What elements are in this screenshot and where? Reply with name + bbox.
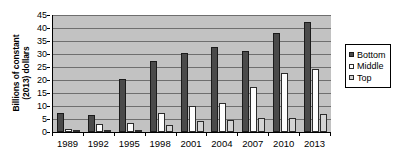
y-tick-label: 45 (37, 10, 47, 19)
x-tick-mark (145, 132, 146, 136)
y-tick-mark (47, 106, 50, 107)
bar-middle-2007 (250, 87, 257, 131)
bar-bottom-1989 (57, 113, 64, 131)
x-tick-label-2001: 2001 (176, 138, 207, 149)
bar-bottom-2001 (181, 53, 188, 131)
x-axis-tick-labels: 198919921995199820012004200720102013 (52, 138, 330, 149)
x-tick-mark (114, 132, 115, 136)
x-tick-label-2013: 2013 (299, 138, 330, 149)
bar-bottom-2010 (273, 33, 280, 132)
y-tick-label: 40 (37, 23, 47, 32)
bar-middle-1992 (96, 124, 103, 132)
x-tick-mark (206, 132, 207, 136)
bar-middle-2004 (219, 103, 226, 132)
y-tick-mark (47, 80, 50, 81)
bar-bottom-1995 (119, 79, 126, 132)
y-tick-label: 10 (37, 101, 47, 110)
y-tick-mark (47, 28, 50, 29)
bar-middle-2001 (189, 106, 196, 132)
x-tick-label-2007: 2007 (237, 138, 268, 149)
bar-group (238, 15, 269, 132)
legend-label: Bottom (357, 50, 386, 60)
x-tick-mark (52, 132, 53, 136)
y-tick-label: 35 (37, 36, 47, 45)
x-tick-label-2004: 2004 (206, 138, 237, 149)
legend-label: Top (357, 73, 372, 83)
legend-swatch-icon (349, 64, 354, 69)
y-tick-mark (47, 119, 50, 120)
y-tick-label: 20 (37, 75, 47, 84)
x-axis-ticks (52, 132, 330, 137)
y-tick-mark (47, 67, 50, 68)
bar-group (300, 15, 331, 132)
bar-group (177, 15, 208, 132)
bar-middle-1995 (127, 123, 134, 132)
bar-bottom-2013 (304, 22, 311, 131)
bar-group (115, 15, 146, 132)
y-tick-label: 25 (37, 62, 47, 71)
y-axis-title-line-1: Billions of constant (10, 35, 21, 112)
bar-top-2013 (320, 114, 327, 132)
y-tick-label: 15 (37, 88, 47, 97)
bar-group (207, 15, 238, 132)
bar-bottom-1992 (88, 115, 95, 131)
bar-chart: Billions of constant (2013) dollars 0510… (0, 0, 407, 163)
legend-label: Middle (357, 61, 384, 71)
legend-item-middle: Middle (349, 61, 386, 71)
y-tick-mark (47, 15, 50, 16)
y-tick-mark (47, 132, 50, 133)
y-tick-mark (47, 41, 50, 42)
x-tick-label-2010: 2010 (268, 138, 299, 149)
bar-bottom-1998 (150, 61, 157, 132)
bar-group (84, 15, 115, 132)
chart-legend: BottomMiddleTop (345, 44, 391, 88)
x-tick-mark (299, 132, 300, 136)
bar-group (53, 15, 84, 132)
bar-top-2001 (197, 121, 204, 131)
x-tick-mark (237, 132, 238, 136)
bar-bottom-2004 (211, 47, 218, 131)
bar-bottom-2007 (242, 51, 249, 131)
x-tick-mark (268, 132, 269, 136)
bar-groups (53, 15, 331, 132)
x-tick-mark (176, 132, 177, 136)
x-tick-label-1995: 1995 (114, 138, 145, 149)
y-tick-mark (47, 54, 50, 55)
bar-top-2004 (227, 120, 234, 131)
x-tick-mark (83, 132, 84, 136)
legend-item-top: Top (349, 73, 386, 83)
x-tick-mark (330, 132, 331, 136)
bar-middle-1998 (158, 113, 165, 131)
bar-group (146, 15, 177, 132)
plot-area (52, 15, 331, 133)
legend-swatch-icon (349, 52, 354, 57)
legend-swatch-icon (349, 75, 354, 80)
x-tick-label-1989: 1989 (52, 138, 83, 149)
x-tick-label-1992: 1992 (83, 138, 114, 149)
bar-middle-2013 (312, 69, 319, 132)
y-tick-label: 30 (37, 49, 47, 58)
x-tick-label-1998: 1998 (145, 138, 176, 149)
legend-item-bottom: Bottom (349, 50, 386, 60)
bar-middle-2010 (281, 73, 288, 132)
y-tick-mark (47, 93, 50, 94)
y-axis-tick-labels: 051015202530354045 (28, 10, 50, 136)
bar-top-2007 (258, 118, 265, 132)
bar-top-2010 (289, 118, 296, 132)
bar-group (269, 15, 300, 132)
